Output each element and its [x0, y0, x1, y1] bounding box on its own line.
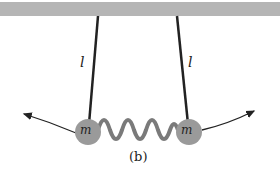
figure-caption: (b) — [129, 149, 147, 164]
right-string — [177, 16, 188, 124]
left-string — [89, 16, 98, 124]
right-length-label: l — [188, 54, 192, 70]
left-mass-label: m — [80, 123, 91, 137]
left-motion-arrow — [24, 114, 76, 133]
ceiling — [0, 2, 280, 16]
spring — [98, 120, 178, 139]
left-length-label: l — [80, 54, 84, 70]
coupled-pendulum-diagram — [0, 0, 280, 172]
right-motion-arrow — [202, 111, 254, 130]
right-mass-label: m — [181, 123, 192, 137]
